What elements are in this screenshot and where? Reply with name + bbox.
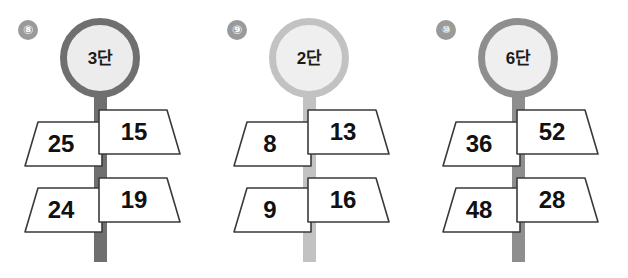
signpost-head-8: 3단 [60,18,140,98]
panel-index-badge-10: ⑩ [436,20,456,40]
sign-plate-left-8-1: 25 [24,120,104,168]
sign-plate-left-9-2: 9 [233,186,313,234]
sign-value-right-9-1: 13 [306,108,390,156]
sign-value-left-10-2: 48 [442,186,522,234]
sign-value-left-9-2: 9 [233,186,313,234]
signpost-head-10: 6단 [478,18,558,98]
panel-index-badge-9: ⑨ [227,20,247,40]
sign-plate-right-9-2: 16 [306,176,390,224]
sign-plate-right-8-2: 19 [97,176,181,224]
head-label-10: 6단 [506,50,530,67]
sign-value-left-8-2: 24 [24,186,104,234]
signpost-head-9: 2단 [269,18,349,98]
head-label-9: 2단 [297,50,321,67]
sign-plate-right-8-1: 15 [97,108,181,156]
sign-plate-right-10-2: 28 [515,176,599,224]
sign-plate-left-9-1: 8 [233,120,313,168]
sign-plate-right-10-1: 52 [515,108,599,156]
sign-value-right-9-2: 16 [306,176,390,224]
signpost-panel-8: ⑧ 3단 25 15 24 [0,0,209,278]
sign-value-right-10-1: 52 [515,108,599,156]
sign-value-right-8-2: 19 [97,176,181,224]
sign-value-right-10-2: 28 [515,176,599,224]
panel-index-badge-8: ⑧ [18,20,38,40]
head-label-8: 3단 [88,50,112,67]
signpost-panel-9: ⑨ 2단 8 13 9 [209,0,418,278]
sign-plate-left-10-1: 36 [442,120,522,168]
sign-plate-left-10-2: 48 [442,186,522,234]
sign-value-left-10-1: 36 [442,120,522,168]
sign-value-left-8-1: 25 [24,120,104,168]
sign-value-right-8-1: 15 [97,108,181,156]
sign-value-left-9-1: 8 [233,120,313,168]
worksheet-canvas: ⑧ 3단 25 15 24 [0,0,628,278]
sign-plate-left-8-2: 24 [24,186,104,234]
sign-plate-right-9-1: 13 [306,108,390,156]
signpost-panel-10: ⑩ 6단 36 52 48 [418,0,627,278]
